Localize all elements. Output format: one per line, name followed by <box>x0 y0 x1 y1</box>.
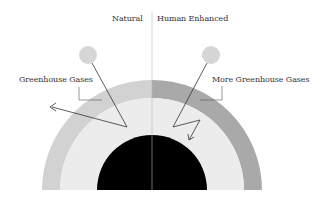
diagram-canvas <box>0 0 320 197</box>
right-sun-icon <box>202 46 220 64</box>
natural-label: Natural <box>112 14 143 24</box>
more-greenhouse-gases-label: More Greenhouse Gases <box>212 75 309 85</box>
human-enhanced-label: Human Enhanced <box>157 14 228 24</box>
greenhouse-gases-label: Greenhouse Gases <box>19 75 93 85</box>
left-sun-icon <box>79 46 97 64</box>
